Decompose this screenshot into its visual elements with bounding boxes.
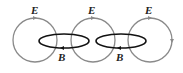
arrow-icon — [60, 46, 64, 50]
field-diagram: E E E B B — [0, 0, 183, 73]
arrow-icon — [170, 39, 174, 43]
arrow-icon — [148, 16, 152, 20]
arrow-icon — [33, 16, 37, 20]
e-label-3: E — [144, 4, 152, 16]
b-label-1: B — [57, 51, 65, 63]
e-label-1: E — [30, 4, 38, 16]
e-loop-3: E — [128, 4, 174, 62]
b-label-2: B — [115, 51, 123, 63]
e-loop-2: E — [71, 4, 115, 62]
arrow-icon — [117, 46, 121, 50]
e-label-2: E — [87, 4, 95, 16]
field-diagram-svg: E E E B B — [0, 0, 183, 73]
e-loop-1: E — [13, 4, 57, 62]
arrow-icon — [91, 16, 95, 20]
